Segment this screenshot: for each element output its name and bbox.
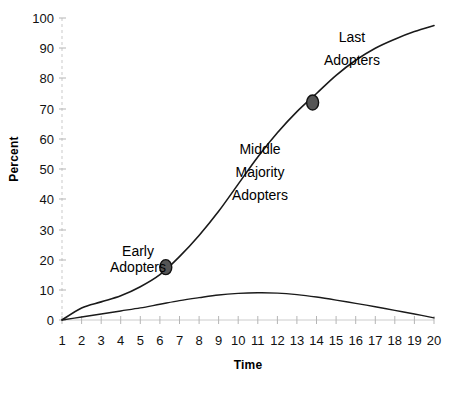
early-adopters-line-2: Adopters: [88, 259, 188, 275]
last-adopters-line-1: Last: [302, 26, 402, 49]
y-tick-label-100: 100: [20, 11, 54, 26]
last-adopters-line-2: Adopters: [302, 49, 402, 72]
x-tick-label-4: 4: [112, 333, 130, 348]
x-tick-label-16: 16: [347, 333, 365, 348]
x-tick-label-15: 15: [327, 333, 345, 348]
x-tick-label-11: 11: [249, 333, 267, 348]
y-tick-marks: [59, 18, 66, 320]
x-tick-label-13: 13: [288, 333, 306, 348]
early-adopters-line-1: Early: [88, 243, 188, 259]
last-adopters-annotation: Last Adopters: [302, 26, 402, 72]
x-tick-label-20: 20: [425, 333, 443, 348]
y-tick-label-90: 90: [20, 41, 54, 56]
x-tick-label-14: 14: [308, 333, 326, 348]
x-tick-label-9: 9: [210, 333, 228, 348]
x-tick-label-12: 12: [268, 333, 286, 348]
y-tick-label-80: 80: [20, 71, 54, 86]
y-tick-label-50: 50: [20, 162, 54, 177]
y-tick-label-60: 60: [20, 132, 54, 147]
adoption-curve-chart: Percent Time 100 90 80 70 60 50 40 30 20…: [0, 0, 456, 393]
x-tick-label-5: 5: [131, 333, 149, 348]
x-tick-label-6: 6: [151, 333, 169, 348]
x-tick-label-8: 8: [190, 333, 208, 348]
x-axis-title: Time: [198, 358, 298, 372]
y-tick-label-20: 20: [20, 253, 54, 268]
x-tick-label-18: 18: [386, 333, 404, 348]
x-tick-label-17: 17: [366, 333, 384, 348]
x-tick-label-3: 3: [92, 333, 110, 348]
y-axis-title: Percent: [7, 129, 21, 189]
x-tick-label-1: 1: [53, 333, 71, 348]
x-tick-label-2: 2: [73, 333, 91, 348]
y-tick-label-40: 40: [20, 192, 54, 207]
middle-majority-line-1: Middle: [210, 138, 310, 161]
x-tick-label-7: 7: [171, 333, 189, 348]
x-tick-label-19: 19: [405, 333, 423, 348]
x-tick-label-10: 10: [229, 333, 247, 348]
middle-majority-line-3: Adopters: [210, 184, 310, 207]
y-tick-label-30: 30: [20, 223, 54, 238]
y-tick-label-70: 70: [20, 102, 54, 117]
middle-majority-line-2: Majority: [210, 161, 310, 184]
middle-majority-adopters-annotation: Middle Majority Adopters: [210, 138, 310, 207]
last-adopters-marker: [307, 95, 319, 110]
y-tick-label-10: 10: [20, 283, 54, 298]
early-adopters-annotation: Early Adopters: [88, 243, 188, 275]
y-tick-label-0: 0: [20, 313, 54, 328]
